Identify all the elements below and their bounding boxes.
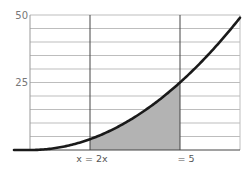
y-tick-25: 25 (15, 77, 28, 88)
y-tick-50: 50 (15, 10, 28, 21)
x-label-upper-bound: = 5 (177, 153, 194, 164)
area-under-curve-chart: 50 25 x = 2x = 5 (0, 0, 252, 169)
x-label-lower-bound: x = 2x (76, 153, 108, 164)
